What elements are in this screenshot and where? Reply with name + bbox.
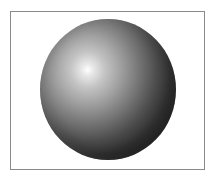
- shaded-sphere: [40, 19, 176, 160]
